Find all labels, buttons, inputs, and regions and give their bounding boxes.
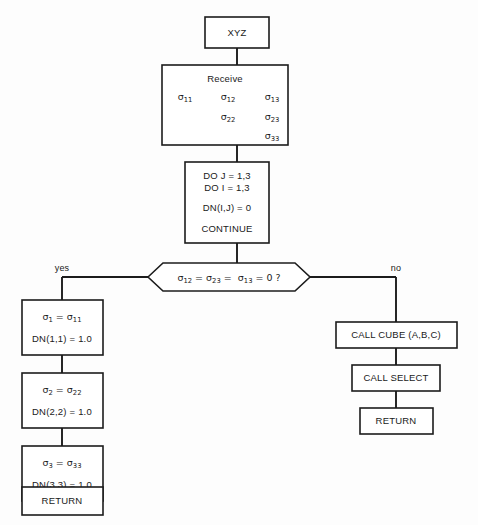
- loop-line-1: DO J = 1,3: [203, 170, 251, 181]
- node-return-right[interactable]: RETURN: [360, 408, 433, 434]
- no-branch-label: no: [391, 263, 401, 273]
- return-left-label: RETURN: [42, 495, 83, 506]
- node-start[interactable]: XYZ: [205, 17, 269, 48]
- node-call-cube[interactable]: CALL CUBE (A,B,C): [336, 322, 457, 348]
- node-assign2[interactable]: σ2 = σ22 DN(2,2) = 1.0: [22, 373, 103, 428]
- call-cube-label: CALL CUBE (A,B,C): [351, 329, 441, 340]
- start-label: XYZ: [227, 27, 246, 38]
- node-decision[interactable]: σ12 = σ23 = σ13 = 0 ?: [148, 263, 310, 291]
- node-loop[interactable]: DO J = 1,3 DO I = 1,3 DN(I,J) = 0 CONTIN…: [185, 162, 269, 243]
- return-right-label: RETURN: [376, 415, 417, 426]
- assign2-box: [22, 373, 103, 428]
- flowchart-canvas: XYZ Receive σ11 σ12 σ13 σ22 σ23 σ33 DO J…: [0, 0, 478, 525]
- receive-heading: Receive: [207, 73, 243, 84]
- assign1-box: [22, 300, 103, 355]
- node-return-left[interactable]: RETURN: [22, 487, 103, 515]
- node-receive[interactable]: Receive σ11 σ12 σ13 σ22 σ23 σ33: [162, 65, 288, 145]
- flowchart-page: XYZ Receive σ11 σ12 σ13 σ22 σ23 σ33 DO J…: [0, 0, 478, 525]
- node-call-select[interactable]: CALL SELECT: [352, 365, 440, 391]
- assign1-dn-line: DN(1,1) = 1.0: [32, 333, 92, 344]
- loop-line-3: DN(I,J) = 0: [203, 202, 251, 213]
- yes-branch-label: yes: [55, 263, 70, 273]
- node-assign1[interactable]: σ1 = σ11 DN(1,1) = 1.0: [22, 300, 103, 355]
- loop-line-4: CONTINUE: [201, 223, 252, 234]
- call-select-label: CALL SELECT: [363, 372, 428, 383]
- assign2-dn-line: DN(2,2) = 1.0: [32, 406, 92, 417]
- loop-line-2: DO I = 1,3: [204, 182, 250, 193]
